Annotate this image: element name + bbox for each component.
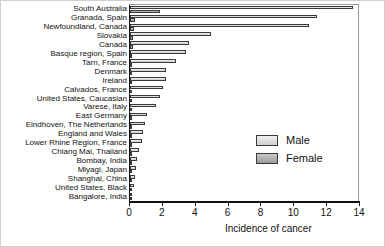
chart-legend: Male Female [256,134,323,170]
bar-male [130,104,156,108]
bar-female [130,170,132,174]
bar-female [130,197,132,201]
x-tick-label: 4 [185,207,205,218]
x-tick [326,201,327,206]
category-label: Bangalore, India [69,192,127,202]
x-tick [129,201,130,206]
bar-male [130,113,147,117]
bar-male [130,15,317,19]
bar-female [130,90,132,94]
bar-female [130,81,132,85]
bar-female [130,10,160,14]
bar-female [130,116,132,120]
bar-female [130,99,132,103]
bar-female [130,54,132,58]
bar-female [130,45,133,49]
x-tick-label: 12 [316,207,336,218]
bar-female [130,179,132,183]
chart-plot-wrapper: South AustraliaGranada, SpainNewfoundlan… [1,1,385,247]
x-tick-label: 0 [119,207,139,218]
x-tick [260,201,261,206]
bar-female [130,161,132,165]
bar-male [130,68,166,72]
bar-male [130,95,160,99]
legend-swatch-male [256,135,278,146]
bar-male [130,32,211,36]
bar-male [130,122,145,126]
legend-item-female: Female [256,152,323,164]
bar-female [130,36,133,40]
x-tick [162,201,163,206]
x-tick-label: 10 [283,207,303,218]
bar-male [130,50,186,54]
x-tick [228,201,229,206]
chart-figure: South AustraliaGranada, SpainNewfoundlan… [0,0,385,247]
x-tick [293,201,294,206]
legend-swatch-female [256,153,278,164]
category-axis-labels: South AustraliaGranada, SpainNewfoundlan… [3,5,127,201]
legend-label-male: Male [286,134,310,146]
legend-label-female: Female [286,152,323,164]
bar-male [130,6,353,10]
x-tick-label: 14 [349,207,369,218]
bar-male [130,59,176,63]
x-tick-label: 8 [250,207,270,218]
plot-area [129,5,359,201]
legend-item-male: Male [256,134,323,146]
x-tick-label: 2 [152,207,172,218]
bar-male [130,86,163,90]
x-axis-line [129,201,359,203]
x-tick [195,201,196,206]
bar-female [130,108,132,112]
x-axis-title: Incidence of cancer [225,223,312,234]
bar-female [130,72,132,76]
bar-male [130,41,189,45]
bar-female [130,63,132,67]
x-tick-label: 6 [218,207,238,218]
bar-male [130,77,166,81]
bar-female [130,143,132,147]
bar-female [130,125,132,129]
bar-female [130,188,132,192]
bar-female [130,18,135,22]
bar-female [130,27,134,31]
x-tick [359,201,360,206]
bar-male [130,24,309,28]
bar-female [130,152,132,156]
bar-female [130,134,132,138]
